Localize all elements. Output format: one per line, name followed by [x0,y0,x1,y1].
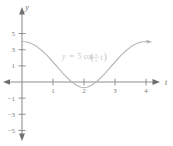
equation-lhs: y [61,52,66,61]
cosine-graph-figure: 5 3 1 −1 −3 −5 1 2 3 4 y t [0,0,173,146]
y-tick-label-neg5: −5 [8,127,16,135]
y-axis-arrow-down-icon [19,134,25,142]
curve-end-arrow-icon [146,39,152,43]
equation-fraction-numerator: π [95,52,98,57]
t-axis [3,79,160,85]
y-tick-label-neg1: −1 [8,95,16,103]
y-axis-arrow-up-icon [19,7,25,15]
x-tick-label-4: 4 [144,87,148,95]
equation-equals: = [69,52,73,61]
y-axis-label: y [24,3,29,12]
y-tick-label-1: 1 [12,62,16,70]
equation-paren-close: ) [104,51,107,63]
y-tick-label-neg3: −3 [8,111,16,119]
cosine-curve [22,42,149,88]
y-tick-label-5: 5 [12,30,16,38]
equation-fraction-denominator: 2 [95,58,98,63]
t-axis-label: t [165,78,168,87]
equation-lhs-group: y = 5 cos [61,52,94,61]
t-axis-arrow-right-icon [153,79,161,85]
y-axis [19,7,25,141]
x-tick-label-1: 1 [51,87,55,95]
plot-canvas: 5 3 1 −1 −3 −5 1 2 3 4 y t [0,0,173,146]
equation-label: y = 5 cos ( π 2 t ) [61,51,107,64]
y-tick-label-3: 3 [12,46,16,54]
equation-amplitude: 5 [78,52,82,61]
t-axis-tick-labels: 1 2 3 4 [51,87,148,95]
x-tick-label-3: 3 [113,87,117,95]
t-axis-arrow-left-icon [3,79,10,85]
